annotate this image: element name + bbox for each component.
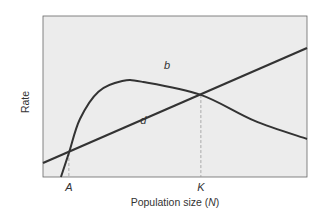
plot-area xyxy=(43,16,307,177)
x-tick-k: K xyxy=(197,181,205,193)
label-d: d xyxy=(140,114,147,126)
label-b: b xyxy=(164,59,170,71)
chart: bd AK Rate Population size (N) xyxy=(0,0,327,220)
y-axis-label: Rate xyxy=(19,91,31,113)
x-tick-labels: AK xyxy=(64,181,205,193)
x-tick-a: A xyxy=(64,181,72,193)
x-axis-label: Population size (N) xyxy=(131,196,220,208)
